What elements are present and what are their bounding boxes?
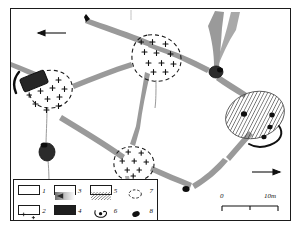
legend-number: 2	[42, 208, 46, 215]
legend-number: 6	[114, 208, 118, 215]
legend-item-5: 5	[86, 180, 122, 200]
legend-item-6: 6	[86, 200, 122, 220]
vessel-with-dot-symbol	[90, 205, 112, 215]
hatched-rectangle-swatch	[90, 185, 112, 195]
black-dot-south	[182, 186, 189, 192]
legend-number: 5	[114, 188, 118, 195]
north-arrow-upper-left	[38, 30, 66, 36]
legend-item-4: 4	[50, 200, 86, 220]
legend-item-1: 1	[14, 180, 50, 200]
black-blob-southwest	[39, 142, 55, 161]
scale-end-label: 10m	[264, 192, 276, 200]
dashed-ellipse-symbol	[125, 185, 147, 195]
scale-bar-ruler	[220, 201, 288, 215]
legend-item-8: 8	[121, 200, 157, 220]
legend: 1 3 5	[13, 179, 158, 221]
scale-start-label: 0	[220, 192, 224, 200]
scale-bar: 0 10m	[220, 192, 288, 214]
site-plan-figure: 1 3 5	[0, 0, 301, 229]
legend-item-2: 2	[14, 200, 50, 220]
legend-number: 1	[42, 188, 46, 195]
legend-number: 7	[149, 188, 153, 195]
flow-arrow-lower-right	[252, 169, 280, 175]
legend-item-7: 7	[121, 180, 157, 200]
legend-number: 4	[78, 208, 82, 215]
legend-number: 3	[78, 188, 82, 195]
white-rectangle-swatch	[18, 185, 40, 195]
cross-marks-south	[120, 150, 149, 179]
gray-gradient-rectangle-swatch	[54, 185, 76, 195]
cross-marked-rectangle-swatch	[18, 205, 40, 215]
filled-ellipse-symbol	[125, 205, 147, 215]
legend-item-3: 3	[50, 180, 86, 200]
legend-number: 8	[149, 208, 153, 215]
black-rectangle-swatch	[54, 205, 76, 215]
black-node-northeast	[209, 66, 223, 78]
